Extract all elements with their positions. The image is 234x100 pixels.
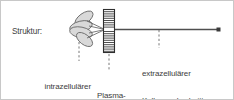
- label-intracellular-line-1: intrazellulärer: [19, 82, 91, 91]
- collagen-terminal-dot: [217, 28, 221, 32]
- label-plasma-membrane: Plasma- membran: [97, 72, 130, 100]
- plasma-membrane: [104, 10, 115, 53]
- figure-container: Struktur: intrazellulärer globulärer Abs…: [0, 0, 234, 100]
- intracellular-globular-domain: [69, 8, 105, 49]
- label-extracellular-line-1: extrazellulärer: [142, 69, 203, 78]
- extracellular-collagen-rod: [107, 28, 221, 32]
- stalk-2: [89, 26, 105, 30]
- label-extracellular-line-2: Kollagenabschnitt: [142, 96, 203, 100]
- label-intracellular-globular-segment: intrazellulärer globulärer Abschnitt: [19, 63, 91, 100]
- page-title: Struktur:: [12, 27, 42, 36]
- label-extracellular-collagen-segment: extrazellulärer Kollagenabschnitt: [142, 50, 203, 100]
- label-membrane-line-1: Plasma-: [97, 91, 130, 100]
